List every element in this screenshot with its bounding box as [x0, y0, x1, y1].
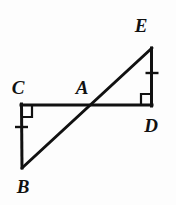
vertex-label-B: B	[17, 177, 30, 196]
geometry-figure: A B C D E	[0, 0, 176, 205]
geometry-canvas	[0, 0, 176, 205]
segment-BE	[22, 48, 152, 168]
vertex-label-D: D	[144, 116, 158, 135]
segments-group	[21, 48, 152, 168]
vertex-label-A: A	[76, 78, 89, 97]
vertex-label-E: E	[135, 16, 148, 35]
vertex-label-C: C	[12, 78, 25, 97]
segment-CB	[22, 104, 23, 168]
